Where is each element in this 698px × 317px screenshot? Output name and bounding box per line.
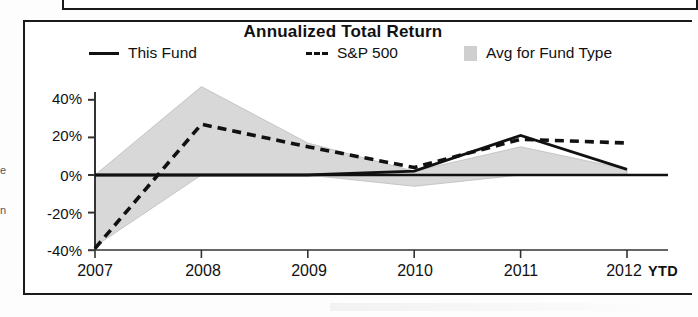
margin-text-line-1: e [0,150,20,190]
x-tick-label-2009: 2009 [274,262,344,280]
legend-item-avg-for-fund-type[interactable]: Avg for Fund Type [464,44,612,62]
legend-label-sp-500: S&P 500 [337,44,398,62]
adjacent-panel-fragment [62,0,698,10]
legend-label-avg-for-fund-type: Avg for Fund Type [486,44,612,62]
x-tick-label-2007: 2007 [60,262,130,280]
legend-item-sp-500[interactable]: S&P 500 [306,44,398,62]
margin-text-line-2: n [0,190,20,230]
x-tick-label-2011: 2011 [486,262,556,280]
y-tick-label-40: 40% [26,91,82,106]
x-tick-label-2008: 2008 [168,262,238,280]
solid-line-swatch-icon [89,52,119,55]
page-margin-text: e n [0,150,20,230]
dashed-line-swatch-icon [306,52,328,55]
scan-smudge [330,303,660,311]
y-tick-label-0: 0% [26,168,82,183]
y-tick-label-20: 20% [26,128,82,143]
y-tick-label-neg20: -20% [26,206,82,221]
x-tick-label-2010: 2010 [380,262,450,280]
legend-label-this-fund: This Fund [128,44,197,62]
gray-area-swatch-icon [464,46,477,61]
x-axis-ytd-label: YTD [648,263,678,279]
chart-legend: This Fund S&P 500 Avg for Fund Type [60,44,680,66]
y-tick-label-neg40: -40% [26,243,82,258]
legend-item-this-fund[interactable]: This Fund [89,44,197,62]
chart-title: Annualized Total Return [23,22,663,42]
